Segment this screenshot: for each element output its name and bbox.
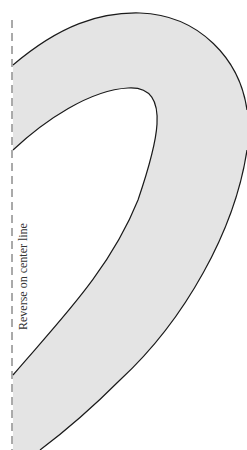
center-line-label: Reverse on center line xyxy=(16,223,31,330)
pattern-piece xyxy=(13,13,247,450)
pattern-diagram xyxy=(0,0,247,450)
